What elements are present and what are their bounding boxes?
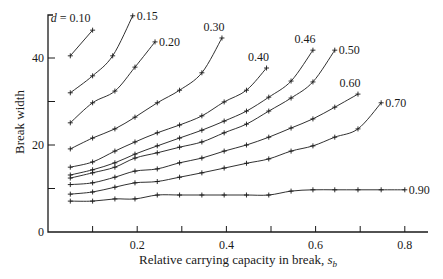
- plus-marker: [132, 115, 137, 120]
- plus-marker: [68, 199, 73, 204]
- plus-marker: [155, 193, 160, 198]
- plus-marker: [199, 193, 204, 198]
- series-curve: [68, 66, 269, 170]
- plus-marker: [155, 143, 160, 148]
- series-curve: [68, 48, 316, 178]
- plus-marker: [112, 149, 117, 154]
- plus-marker: [289, 189, 294, 194]
- curve-line: [70, 190, 405, 202]
- x-axis-label: Relative carrying capacity in break, sb: [139, 252, 337, 269]
- plus-marker: [266, 135, 271, 140]
- plus-marker: [199, 113, 204, 118]
- plus-marker: [155, 150, 160, 155]
- curve-line: [70, 50, 335, 178]
- plus-marker: [132, 139, 137, 144]
- y-axis-label: Break width: [12, 90, 27, 154]
- curve-line: [70, 68, 266, 167]
- plus-marker: [68, 192, 73, 197]
- curve-line: [70, 94, 358, 184]
- plus-marker: [90, 170, 95, 175]
- plus-marker: [310, 143, 315, 148]
- plus-marker: [112, 126, 117, 131]
- y-tick-label: 0: [38, 225, 44, 239]
- plus-marker: [289, 96, 294, 101]
- plus-marker: [402, 187, 407, 192]
- plus-marker: [132, 156, 137, 161]
- plus-marker: [244, 122, 249, 127]
- plus-marker: [177, 136, 182, 141]
- plus-marker: [199, 170, 204, 175]
- plus-marker: [112, 175, 117, 180]
- series-curve: [68, 100, 384, 196]
- plus-marker: [222, 149, 227, 154]
- series-curve: [68, 39, 158, 125]
- plus-marker: [155, 166, 160, 171]
- axes: 0.20.40.60.8 02040: [32, 15, 428, 252]
- curve-line: [70, 103, 381, 194]
- plus-marker: [132, 196, 137, 201]
- plus-marker: [222, 99, 227, 104]
- plus-marker: [310, 187, 315, 192]
- curve-labels: d = 0.100.150.200.300.400.460.500.600.70…: [51, 9, 430, 197]
- plus-marker: [310, 116, 315, 121]
- plus-marker: [177, 88, 182, 93]
- plus-marker: [332, 135, 337, 140]
- plus-marker: [266, 193, 271, 198]
- y-axis-ticks: 02040: [32, 51, 55, 239]
- curve-label: 0.30: [203, 20, 224, 34]
- plus-marker: [68, 146, 73, 151]
- plus-marker: [199, 156, 204, 161]
- series-curve: [68, 92, 361, 187]
- plus-marker: [177, 122, 182, 127]
- plus-marker: [355, 92, 360, 97]
- plus-marker: [379, 187, 384, 192]
- curve-label: 0.20: [159, 35, 180, 49]
- plus-marker: [289, 126, 294, 131]
- x-tick-label: 0.4: [219, 238, 234, 252]
- plus-marker: [266, 109, 271, 114]
- plus-marker: [332, 48, 337, 53]
- plus-marker: [244, 161, 249, 166]
- plus-marker: [68, 176, 73, 181]
- plus-marker: [244, 143, 249, 148]
- curves: [68, 13, 408, 203]
- plus-marker: [266, 156, 271, 161]
- curve-line: [70, 38, 222, 149]
- plus-marker: [219, 35, 224, 40]
- series-curve: [68, 187, 408, 203]
- plus-marker: [90, 136, 95, 141]
- plus-marker: [244, 109, 249, 114]
- plus-marker: [90, 189, 95, 194]
- series-curve: [68, 48, 337, 181]
- x-axis-label-text: Relative carrying capacity in break,: [139, 252, 327, 267]
- plus-marker: [289, 149, 294, 154]
- plus-marker: [222, 193, 227, 198]
- plus-marker: [90, 180, 95, 185]
- x-tick-label: 0.2: [130, 238, 145, 252]
- plus-marker: [155, 179, 160, 184]
- x-axis-label-sub: b: [332, 259, 337, 269]
- x-axis-ticks: 0.20.40.60.8: [93, 226, 413, 252]
- plus-marker: [68, 182, 73, 187]
- plus-marker: [177, 193, 182, 198]
- curve-label: 0.46: [294, 32, 315, 46]
- series-curve: [68, 28, 95, 59]
- plus-marker: [112, 185, 117, 190]
- plus-marker: [68, 165, 73, 170]
- plus-marker: [112, 160, 117, 165]
- plus-marker: [177, 160, 182, 165]
- plus-marker: [310, 48, 315, 53]
- curve-label: 0.90: [409, 183, 430, 197]
- plus-marker: [155, 130, 160, 135]
- x-tick-label: 0.6: [308, 238, 323, 252]
- plus-marker: [132, 169, 137, 174]
- plus-marker: [132, 180, 137, 185]
- plus-marker: [177, 145, 182, 150]
- plus-marker: [90, 159, 95, 164]
- plus-marker: [244, 193, 249, 198]
- curve-label: 0.15: [137, 9, 158, 23]
- series-curve: [68, 13, 135, 95]
- curve-line: [70, 16, 132, 93]
- curve-label: 0.50: [339, 43, 360, 57]
- x-tick-label: 0.8: [397, 238, 412, 252]
